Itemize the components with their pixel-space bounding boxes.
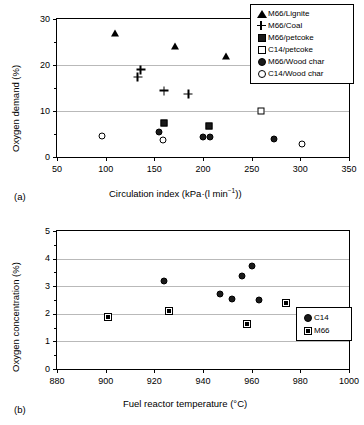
legend-label: M66/Lignite	[268, 10, 309, 18]
data-point	[161, 119, 168, 126]
x-tick-label: 980	[280, 377, 320, 386]
data-point	[161, 277, 168, 284]
x-tick-label: 350	[329, 165, 364, 174]
panel-b: Oxygen concentration (%) 012345880900920…	[0, 212, 358, 425]
data-point	[160, 137, 167, 144]
data-point	[104, 313, 112, 321]
x-tick-mark	[203, 369, 204, 373]
y-minor-tick-mark	[54, 272, 57, 273]
panel-a-x-axis-title: Circulation index (kPa·(l min−1))	[109, 185, 242, 199]
x-tick-label: 300	[280, 165, 320, 174]
panel-a-legend-item: M66/Wood char	[255, 56, 349, 68]
x-tick-mark	[252, 157, 253, 161]
data-point	[156, 129, 163, 136]
x-tick-label: 1000	[329, 377, 364, 386]
panel-a-legend-item: C14/petcoke	[255, 44, 349, 56]
x-tick-mark	[106, 369, 107, 373]
x-tick-label: 960	[232, 377, 272, 386]
x-tick-label: 250	[232, 165, 272, 174]
y-tick-mark	[53, 341, 57, 342]
y-tick-label: 30	[20, 15, 50, 24]
data-point	[98, 133, 105, 140]
data-point	[238, 272, 245, 279]
legend-marker-plus-icon	[255, 21, 268, 31]
data-point	[160, 86, 169, 95]
panel-b-x-axis-title: Fuel reactor temperature (°C)	[123, 398, 247, 409]
y-minor-tick-mark	[54, 355, 57, 356]
legend-marker-square-open-icon	[255, 46, 268, 54]
legend-label: M66/Coal	[268, 22, 302, 30]
x-tick-label: 940	[183, 377, 223, 386]
data-point	[184, 89, 193, 98]
y-tick-mark	[53, 111, 57, 112]
data-point	[229, 296, 236, 303]
gridline	[57, 259, 349, 260]
panel-a-tag: (a)	[14, 191, 26, 202]
y-tick-label: 0	[20, 365, 50, 374]
x-tick-mark	[349, 369, 350, 373]
data-point	[248, 262, 255, 269]
y-tick-mark	[53, 259, 57, 260]
legend-marker-circle-open-icon	[255, 70, 268, 78]
y-minor-tick-mark	[54, 134, 57, 135]
gridline	[57, 341, 349, 342]
panel-a: Oxygen demand (%) 0102030501001502002503…	[0, 0, 358, 212]
data-point	[282, 299, 290, 307]
panel-a-x-axis-title-prefix: Circulation index (kPa·(l min	[109, 188, 228, 199]
legend-label: C14/Wood char	[268, 70, 323, 78]
legend-label: M66	[314, 327, 330, 335]
data-point	[206, 134, 213, 141]
legend-label: M66/Wood char	[268, 58, 324, 66]
x-tick-label: 880	[37, 377, 77, 386]
y-tick-mark	[53, 286, 57, 287]
x-tick-label: 920	[134, 377, 174, 386]
x-tick-mark	[57, 369, 58, 373]
x-tick-label: 100	[86, 165, 126, 174]
legend-label: C14	[314, 314, 329, 322]
y-tick-mark	[53, 19, 57, 20]
y-tick-mark	[53, 65, 57, 66]
x-tick-label: 150	[134, 165, 174, 174]
data-point	[299, 140, 306, 147]
panel-b-legend-item: C14	[301, 311, 347, 324]
y-tick-label: 0	[20, 153, 50, 162]
data-point	[243, 320, 251, 328]
y-tick-label: 3	[20, 282, 50, 291]
y-minor-tick-mark	[54, 300, 57, 301]
panel-a-x-axis-title-suffix: ))	[235, 188, 241, 199]
legend-label: C14/petcoke	[268, 46, 313, 54]
legend-marker-triangle-filled-icon	[255, 10, 268, 18]
panel-a-legend-item: M66/petcoke	[255, 32, 349, 44]
data-point	[205, 123, 212, 130]
y-tick-label: 5	[20, 227, 50, 236]
panel-b-tag: (b)	[14, 404, 26, 415]
x-tick-mark	[300, 369, 301, 373]
x-tick-mark	[154, 157, 155, 161]
data-point	[255, 297, 262, 304]
x-tick-mark	[57, 157, 58, 161]
y-tick-label: 10	[20, 107, 50, 116]
y-tick-label: 4	[20, 254, 50, 263]
panel-a-legend: M66/LigniteM66/CoalM66/petcokeC14/petcok…	[250, 4, 354, 84]
x-tick-label: 50	[37, 165, 77, 174]
y-minor-tick-mark	[54, 328, 57, 329]
gridline	[57, 111, 349, 112]
data-point	[222, 52, 230, 59]
panel-a-legend-item: M66/Coal	[255, 20, 349, 32]
panel-b-plot-area: 0123458809009209409609801000	[56, 230, 350, 370]
x-tick-label: 900	[86, 377, 126, 386]
panel-b-legend: C14M66	[296, 307, 352, 341]
gridline	[57, 286, 349, 287]
legend-marker-circle-filled-icon	[255, 58, 268, 66]
data-point	[171, 42, 179, 49]
x-tick-mark	[349, 157, 350, 161]
data-point	[136, 65, 145, 74]
data-point	[271, 136, 278, 143]
y-tick-label: 20	[20, 61, 50, 70]
x-tick-mark	[106, 157, 107, 161]
y-tick-label: 1	[20, 337, 50, 346]
y-tick-mark	[53, 314, 57, 315]
data-point	[165, 307, 173, 315]
panel-a-legend-item: M66/Lignite	[255, 8, 349, 20]
y-tick-label: 2	[20, 309, 50, 318]
